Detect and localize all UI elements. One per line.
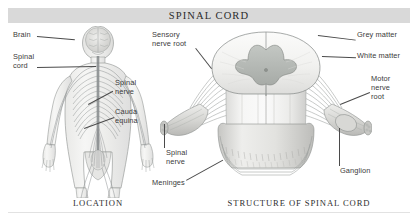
- spinal-nerve-trunk-left: [160, 104, 208, 135]
- cord-cross-section: [212, 32, 320, 96]
- label-spinal-nerve-left: Spinal nerve: [115, 78, 136, 96]
- leader-spinal-nerve-structure: [164, 124, 165, 148]
- leader-ganglion: [339, 128, 340, 166]
- caption-location: LOCATION: [30, 198, 166, 208]
- label-sensory-nerve-root: Sensory nerve root: [152, 30, 186, 48]
- label-grey-matter: Grey matter: [357, 30, 397, 39]
- label-white-matter: White matter: [357, 51, 400, 60]
- location-figure: [36, 26, 160, 198]
- label-spinal-nerve-structure: Spinal nerve: [166, 148, 187, 166]
- label-meninges: Meninges: [152, 178, 185, 187]
- page-title: SPINAL CORD: [169, 10, 249, 21]
- title-bar: SPINAL CORD: [8, 8, 410, 23]
- label-motor-nerve-root: Motor nerve root: [371, 74, 390, 102]
- label-ganglion: Ganglion: [340, 166, 370, 175]
- caption-structure: STRUCTURE OF SPINAL CORD: [196, 198, 402, 208]
- spinal-cord-diagram: SPINAL CORD: [0, 0, 418, 220]
- spinal-nerve-trunk-right: [324, 104, 372, 135]
- label-brain: Brain: [13, 30, 31, 39]
- label-spinal-cord: Spinal cord: [13, 52, 34, 70]
- label-cauda-equina: Cauda equina: [115, 107, 138, 125]
- bottom-divider: [8, 212, 410, 213]
- meninges-layers: [218, 123, 314, 175]
